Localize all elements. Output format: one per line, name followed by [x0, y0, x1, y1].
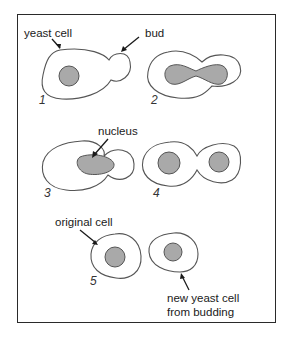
stage-1: yeast cell bud 1 — [24, 27, 164, 107]
nucleus-right-shape — [209, 152, 229, 172]
stage-number-1: 1 — [39, 93, 46, 107]
budding-diagram: yeast cell bud 1 2 nucleus 3 4 original … — [0, 0, 288, 337]
label-bud: bud — [145, 27, 164, 39]
original-nucleus-shape — [105, 247, 125, 267]
label-new-cell-line2: from budding — [167, 306, 234, 318]
arrowhead-icon — [56, 44, 61, 49]
label-nucleus: nucleus — [98, 125, 138, 137]
stage-4: 4 — [142, 142, 240, 200]
nucleus-shape — [59, 66, 79, 86]
label-original-cell: original cell — [55, 216, 113, 228]
nucleus-left-shape — [158, 152, 180, 174]
stage-number-2: 2 — [150, 93, 158, 107]
stage-3: nucleus 3 — [42, 125, 138, 200]
arrow-original-cell — [80, 230, 96, 243]
stage-number-5: 5 — [90, 274, 97, 288]
stage-5: original cell 5 new yeast cell from budd… — [55, 216, 239, 318]
stage-2: 2 — [148, 51, 241, 107]
yeast-cell-outline — [42, 49, 130, 99]
label-new-cell-line1: new yeast cell — [167, 292, 239, 304]
migrating-nucleus-shape — [77, 155, 114, 175]
new-nucleus-shape — [164, 243, 182, 261]
label-yeast-cell: yeast cell — [24, 27, 72, 39]
stage-number-3: 3 — [44, 186, 51, 200]
arrow-bud — [123, 37, 139, 50]
arrowhead-icon — [180, 273, 185, 279]
stage-number-4: 4 — [153, 186, 160, 200]
